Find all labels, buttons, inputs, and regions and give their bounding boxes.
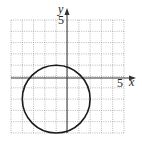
x-tick-label: 5 <box>117 76 123 90</box>
circle-graph: x 5 y 5 <box>0 0 142 145</box>
x-axis-label: x <box>128 75 135 89</box>
y-tick-label: 5 <box>58 13 64 27</box>
y-axis-arrow-icon <box>65 8 70 15</box>
